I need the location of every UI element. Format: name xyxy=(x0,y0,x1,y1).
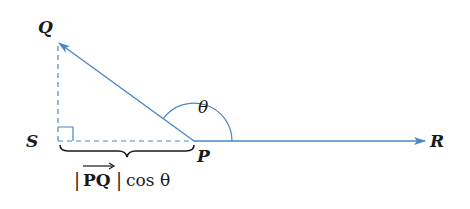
abs-bar-right: | xyxy=(116,169,122,191)
abs-bar-left: | xyxy=(74,169,80,191)
cos-function: cos xyxy=(126,170,154,190)
point-label-s: S xyxy=(26,131,38,151)
projection-formula: | PQ | cos θ xyxy=(74,163,170,191)
point-label-p: P xyxy=(196,146,211,166)
point-label-r: R xyxy=(429,131,444,151)
angle-label-theta: θ xyxy=(198,97,208,117)
underbrace-sp xyxy=(60,145,194,157)
projection-diagram: Q S P R θ | PQ | cos θ xyxy=(0,0,470,209)
vector-name-pq: PQ xyxy=(83,170,111,190)
right-angle-marker xyxy=(58,127,73,141)
vector-pq-arrow xyxy=(59,43,194,141)
cos-argument-theta: θ xyxy=(160,170,170,190)
point-label-q: Q xyxy=(38,17,53,37)
diagram-canvas: Q S P R θ | PQ | cos θ xyxy=(0,0,470,209)
